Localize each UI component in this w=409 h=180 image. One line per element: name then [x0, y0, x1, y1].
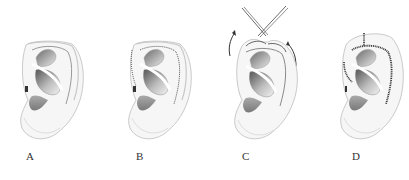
panel-label-d: D — [352, 150, 360, 162]
panel-a: A — [10, 0, 90, 180]
panel-label-c: C — [242, 150, 249, 162]
panel-d: D — [330, 0, 409, 180]
ear-illustration-c — [222, 0, 304, 150]
ear-illustration-a — [10, 0, 90, 150]
panel-label-b: B — [136, 150, 143, 162]
ear-illustration-b — [118, 0, 198, 150]
ear-illustration-d — [330, 0, 409, 150]
rotation-arrow-left-icon — [229, 34, 234, 56]
panel-label-a: A — [26, 150, 34, 162]
panel-b: B — [118, 0, 198, 180]
panel-c: C — [222, 0, 304, 180]
needle-icon — [242, 6, 288, 37]
